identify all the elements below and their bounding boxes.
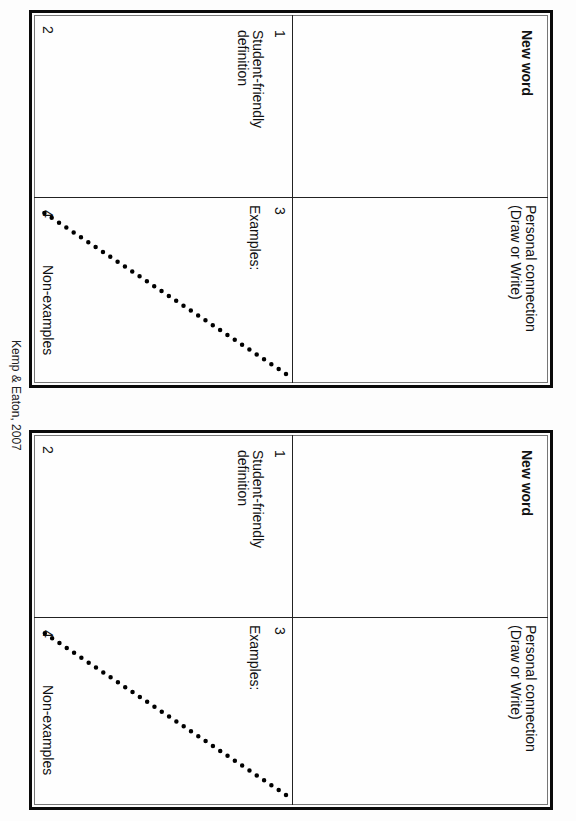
vocabulary-card-2: New word Personal connection (Draw or Wr… [29,430,553,810]
vocabulary-card-1: New word Personal connection (Draw or Wr… [29,10,553,388]
dotted-diagonal-line [26,433,550,813]
citation-caption: Kemp & Eaton, 2007 [9,340,22,451]
dotted-diagonal-line [26,13,550,391]
